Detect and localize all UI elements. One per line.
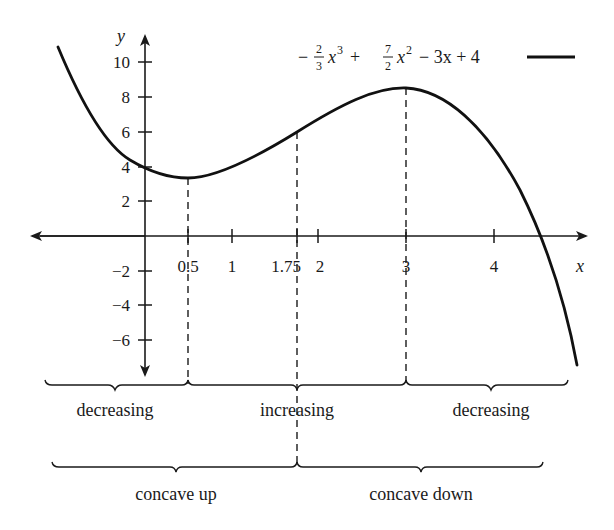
y-tick-label: −2	[112, 262, 130, 281]
y-tick-label: 10	[113, 53, 130, 72]
legend-minus: −	[298, 47, 308, 67]
y-tick-label: 6	[122, 123, 131, 142]
y-tick-label: −6	[112, 331, 130, 350]
x-tick-labels: 0.5 1 1.75 2 3 4	[177, 257, 498, 276]
label-decreasing-right: decreasing	[453, 400, 530, 420]
legend-x2: x	[396, 47, 405, 67]
legend: − 2 3 x 3 + 7 2 x 2 − 3x + 4	[298, 42, 575, 73]
legend-rest: − 3x + 4	[419, 47, 480, 67]
y-tick-label: 2	[122, 192, 131, 211]
monotonicity-braces	[45, 380, 568, 390]
x-tick-label: 2	[316, 257, 325, 276]
legend-frac1-den: 3	[316, 59, 322, 73]
legend-exp1: 3	[337, 43, 343, 57]
label-concave-up: concave up	[135, 484, 216, 504]
function-curve	[58, 47, 577, 365]
x-axis-label: x	[575, 256, 584, 276]
label-decreasing-left: decreasing	[77, 400, 154, 420]
x-tick-label: 4	[490, 257, 499, 276]
x-tick-label: 1	[228, 257, 237, 276]
y-tick-labels: 10 8 6 4 2 −2 −4 −6	[112, 53, 131, 350]
label-concave-down: concave down	[369, 484, 472, 504]
legend-frac2-den: 2	[385, 59, 391, 73]
concavity-braces	[52, 462, 543, 472]
legend-exp2: 2	[406, 43, 412, 57]
label-increasing: increasing	[260, 400, 334, 420]
chart-canvas: 0.5 1 1.75 2 3 4 10 8 6 4 2 −2 −4 −6 y x	[0, 0, 614, 530]
legend-x1: x	[327, 47, 336, 67]
y-tick-label: 8	[122, 88, 131, 107]
y-axis-label: y	[115, 26, 125, 46]
y-tick-label: −4	[112, 296, 131, 315]
legend-frac1-num: 2	[316, 42, 322, 56]
legend-frac2-num: 7	[385, 42, 391, 56]
legend-plus: +	[350, 47, 360, 67]
